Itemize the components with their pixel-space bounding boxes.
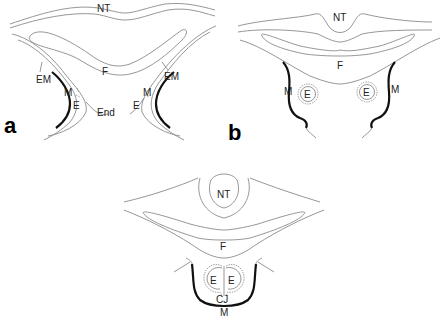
- panel-a-nt-upper: [10, 3, 215, 24]
- panel-c: NT F E E CJ M: [124, 174, 324, 318]
- panel-a-label-m-left: M: [64, 87, 72, 98]
- panel-a-label-em-left: EM: [36, 74, 51, 85]
- panel-a-label-e-right: E: [133, 100, 140, 111]
- panel-a-letter: a: [4, 113, 17, 138]
- panel-b: NT F M M E E b: [228, 12, 440, 145]
- panel-c-label-f: F: [220, 241, 226, 252]
- panel-b-label-e-right: E: [363, 87, 370, 98]
- panel-c-label-e-left: E: [210, 275, 217, 286]
- figure-canvas: NT F EM EM M M E E End a NT F M M E E: [0, 0, 443, 318]
- panel-a-em-left-pointer: [40, 62, 42, 72]
- panel-a-nt-lower: [10, 9, 215, 28]
- panel-c-mesoderm-ends: [186, 258, 262, 264]
- panel-b-label-f: F: [337, 60, 343, 71]
- panel-c-arrow-left: [174, 262, 190, 272]
- panel-b-floor-plate: [262, 34, 415, 56]
- panel-b-letter: b: [228, 120, 241, 145]
- panel-a-label-em-right: EM: [164, 71, 179, 82]
- panel-c-floor-plate: [143, 212, 305, 240]
- panel-c-label-e-right: E: [228, 275, 235, 286]
- panel-a-label-e-left: E: [73, 100, 80, 111]
- panel-c-label-cj: CJ: [216, 294, 228, 305]
- panel-a-inner-right: [151, 32, 210, 140]
- panel-c-label-nt: NT: [217, 189, 230, 200]
- panel-a: NT F EM EM M M E E End a: [4, 3, 216, 140]
- panel-a-label-end: End: [97, 107, 115, 118]
- panel-b-label-m-left: M: [284, 86, 292, 97]
- panel-a-label-nt: NT: [97, 3, 110, 14]
- panel-b-mesoderm-right: [371, 62, 395, 128]
- panel-a-label-m-right: M: [143, 87, 151, 98]
- panel-a-outer-left: [12, 34, 86, 136]
- panel-a-label-f: F: [102, 66, 108, 77]
- panel-b-label-nt: NT: [333, 12, 346, 23]
- panel-b-tail-right: [362, 128, 372, 138]
- panel-b-tail-left: [306, 128, 316, 138]
- panel-a-mesoderm-left: [52, 72, 70, 128]
- panel-c-arrow-right: [258, 262, 274, 272]
- panel-b-label-m-right: M: [391, 84, 399, 95]
- panel-c-label-m: M: [220, 307, 228, 318]
- panel-b-label-e-left: E: [304, 89, 311, 100]
